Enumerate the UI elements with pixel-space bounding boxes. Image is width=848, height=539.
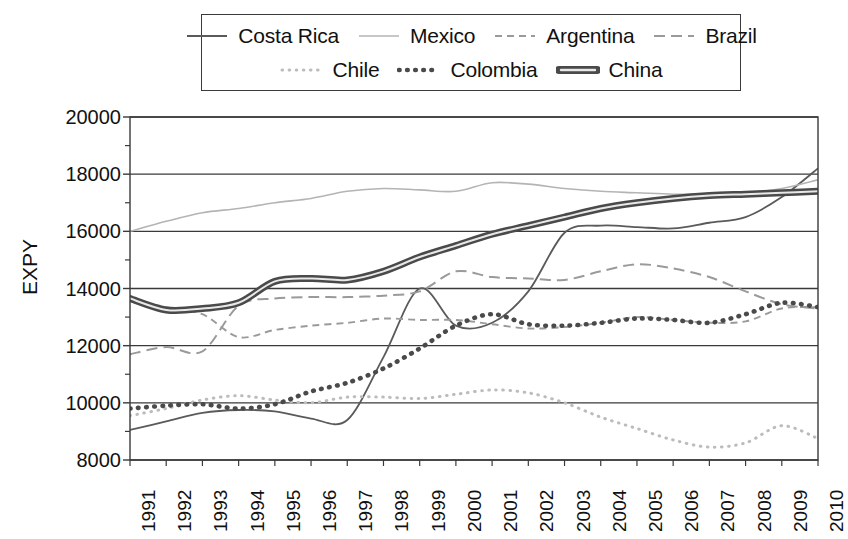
series-line-3 [130, 264, 818, 354]
series-line-1 [130, 180, 818, 231]
major-tick-marks [123, 117, 818, 466]
data-series-group [130, 168, 818, 447]
series-line-4 [130, 390, 818, 447]
